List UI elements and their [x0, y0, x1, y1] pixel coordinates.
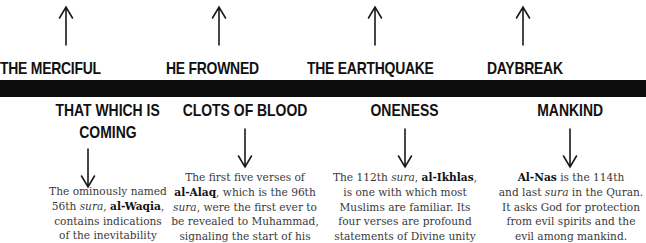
description-line: It asks God for protection — [482, 200, 646, 215]
sura-name: al-Ikhlas — [422, 171, 474, 183]
italic-term: sura — [173, 201, 197, 213]
title-mankind: MANKIND — [490, 100, 646, 122]
description-line: signaling the start of his — [160, 229, 330, 243]
description-al-ikhlas: The 112th sura, al-Ikhlas,is one with wh… — [314, 170, 496, 243]
description-line: four verses are profound — [314, 214, 496, 229]
down-arrow-icon — [562, 128, 578, 170]
description-line: evil among mankind. — [482, 229, 646, 243]
description-line: The first five verses of — [160, 170, 330, 185]
up-arrow-icon — [211, 4, 227, 46]
up-arrow-icon — [367, 4, 383, 46]
title-daybreak: DAYBREAK — [487, 59, 563, 79]
title-that-which-is-coming: THAT WHICH IS COMING — [28, 100, 188, 144]
description-line: Al-Nas is the 114th — [482, 170, 646, 185]
description-line: from evil spirits and the — [482, 214, 646, 229]
title-oneness: ONENESS — [325, 100, 485, 122]
description-line: statements of Divine unity — [314, 229, 496, 243]
sura-name: al-Waqia — [110, 200, 161, 212]
description-al-alaq: The first five verses ofal-Alaq, which i… — [160, 170, 330, 243]
description-al-nas: Al-Nas is the 114thand last sura in the … — [482, 170, 646, 243]
title-clots-of-blood: CLOTS OF BLOOD — [165, 100, 325, 122]
description-line: al-Alaq, which is the 96th — [160, 185, 330, 200]
up-arrow-icon — [515, 4, 531, 46]
title-the-merciful: THE MERCIFUL — [0, 59, 101, 79]
down-arrow-icon — [237, 128, 253, 170]
sura-name: al-Alaq — [174, 186, 216, 198]
description-line: is one with which most — [314, 185, 496, 200]
sura-name: Al-Nas — [518, 171, 557, 183]
title-he-frowned: HE FROWNED — [166, 59, 259, 79]
description-line: and last sura in the Quran. — [482, 185, 646, 200]
title-the-earthquake: THE EARTHQUAKE — [307, 59, 434, 79]
italic-term: sura — [545, 186, 569, 198]
italic-term: sura — [391, 171, 415, 183]
down-arrow-icon — [397, 128, 413, 170]
description-line: The 112th sura, al-Ikhlas, — [314, 170, 496, 185]
description-line: sura, were the first ever to — [160, 200, 330, 215]
description-line: Muslims are familiar. Its — [314, 200, 496, 215]
up-arrow-icon — [58, 4, 74, 46]
description-line: be revealed to Muhammad, — [160, 214, 330, 229]
italic-term: sura — [80, 200, 104, 212]
timeline-bar — [0, 80, 646, 97]
